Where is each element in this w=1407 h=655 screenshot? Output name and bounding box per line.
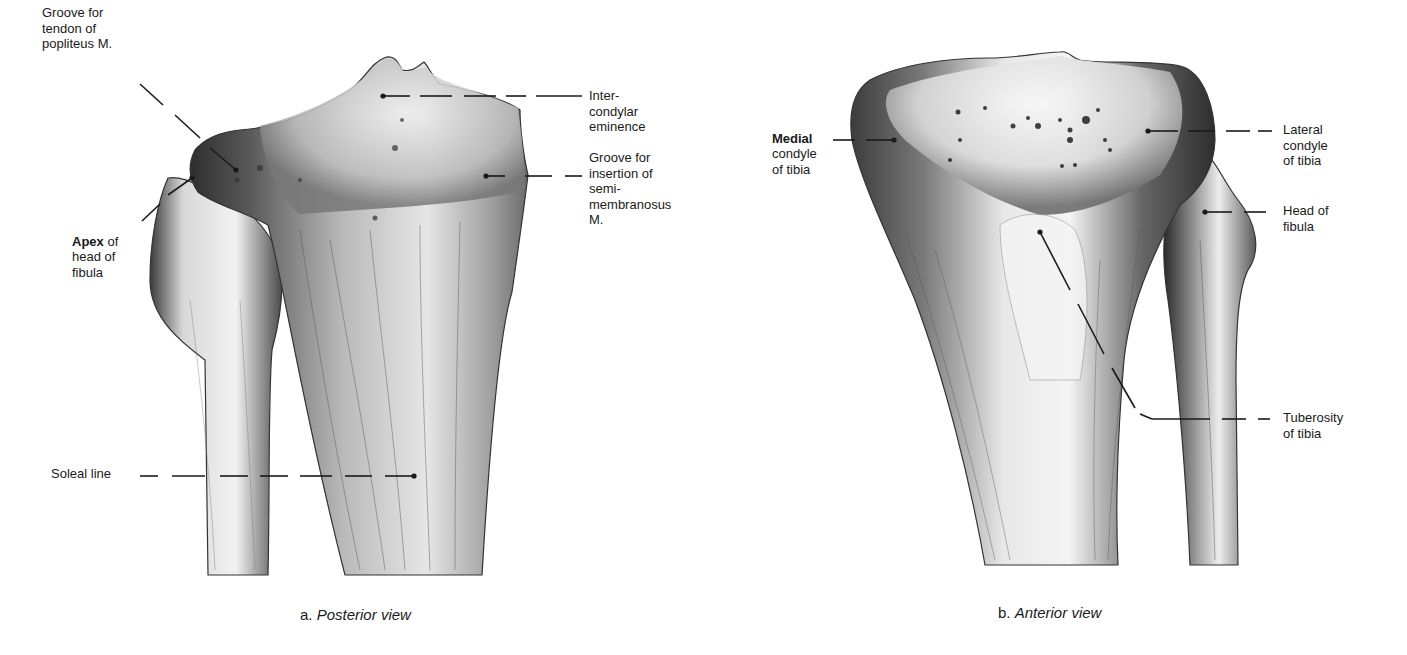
anterior-view-illustration [833, 52, 1272, 565]
label-apex-head-fibula: Apex ofhead of fibula [72, 218, 118, 280]
label-groove-popliteus: Groove for tendon of popliteus M. [42, 5, 112, 52]
caption-b-view: Anterior view [1015, 604, 1102, 621]
posterior-view-illustration [140, 57, 582, 575]
fibula-posterior [150, 178, 282, 575]
caption-posterior-view: a. Posterior view [300, 606, 411, 623]
label-medial-rest: condyle of tibia [772, 146, 817, 177]
label-soleal-line: Soleal line [51, 466, 111, 482]
label-apex-of: of [104, 234, 118, 249]
label-head-of-fibula: Head of fibula [1283, 203, 1329, 234]
caption-anterior-view: b. Anterior view [998, 604, 1101, 621]
caption-a-view: Posterior view [317, 606, 411, 623]
label-apex-line2: head of fibula [72, 249, 115, 280]
label-tuberosity-of-tibia: Tuberosity of tibia [1283, 410, 1343, 441]
fibula-anterior [1164, 148, 1256, 565]
label-groove-semimembranosus: Groove for insertion of semi- membranosu… [589, 150, 671, 228]
label-intercondylar-eminence: Inter- condylar eminence [589, 88, 645, 135]
caption-a-prefix: a. [300, 606, 313, 623]
label-lateral-condyle: Lateral condyle of tibia [1283, 122, 1328, 169]
label-medial-condyle: Medialcondyle of tibia [772, 115, 817, 177]
bone-illustrations [0, 0, 1407, 655]
label-apex-bold: Apex [72, 234, 104, 249]
label-medial-bold: Medial [772, 131, 812, 146]
anatomy-figure: Groove for tendon of popliteus M. Apex o… [0, 0, 1407, 655]
caption-b-prefix: b. [998, 604, 1011, 621]
